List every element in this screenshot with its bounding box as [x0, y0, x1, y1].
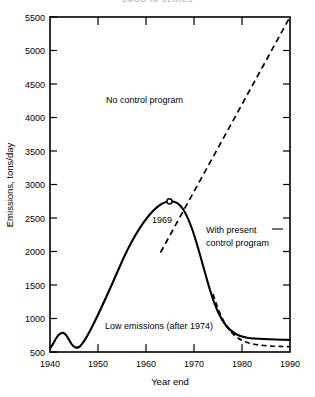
x-tick-label: 1940	[40, 359, 60, 369]
y-axis-ticks-right	[283, 51, 290, 319]
y-tick-label: 4000	[25, 113, 45, 123]
cropped-header-text: SMOG IN SERIES	[0, 0, 315, 3]
x-tick-label: 1960	[136, 359, 156, 369]
peak-marker-1969	[167, 199, 172, 204]
y-axis-tick-labels: 5500 5000 4500 4000 3500 3000 2500 2000 …	[25, 13, 45, 358]
y-tick-label: 4500	[25, 80, 45, 90]
x-axis-title: Year end	[151, 376, 189, 387]
annotation-with-present-line1: With present	[206, 225, 257, 235]
y-tick-label: 2500	[25, 214, 45, 224]
y-tick-label: 1000	[25, 314, 45, 324]
x-tick-label: 1970	[184, 359, 204, 369]
y-axis-title: Emissions, tons/day	[4, 143, 15, 228]
y-tick-label: 500	[30, 348, 45, 358]
x-tick-label: 1950	[88, 359, 108, 369]
y-tick-label: 1500	[25, 281, 45, 291]
y-tick-label: 5000	[25, 46, 45, 56]
annotation-1969: 1969	[152, 215, 172, 225]
emissions-chart-svg: 5500 5000 4500 4000 3500 3000 2500 2000 …	[0, 0, 315, 397]
y-tick-label: 2000	[25, 247, 45, 257]
emissions-figure: SMOG IN SERIES	[0, 0, 315, 397]
annotation-low-emissions: Low emissions (after 1974)	[105, 321, 213, 331]
plot-frame	[50, 17, 290, 352]
annotation-no-control-program: No control program	[106, 95, 183, 105]
y-axis-ticks	[50, 17, 57, 352]
x-tick-label: 1980	[232, 359, 252, 369]
y-tick-label: 3000	[25, 180, 45, 190]
y-tick-label: 3500	[25, 147, 45, 157]
y-tick-label: 5500	[25, 13, 45, 23]
x-axis-ticks	[98, 344, 242, 352]
x-axis-tick-labels: 1940 1950 1960 1970 1980 1990	[40, 359, 300, 369]
x-tick-label: 1990	[280, 359, 300, 369]
x-axis-ticks-top	[98, 17, 242, 25]
series-no-control-program	[161, 17, 291, 253]
annotation-with-present-line2: control program	[206, 238, 269, 248]
